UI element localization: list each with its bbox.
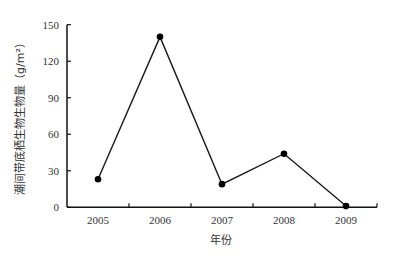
x-tick-label: 2005	[87, 214, 110, 226]
data-point-marker	[281, 150, 288, 157]
y-tick-label: 120	[43, 55, 60, 67]
x-axis-title: 年份	[210, 233, 232, 247]
y-tick-label: 90	[48, 92, 60, 104]
x-tick-label: 2007	[211, 214, 234, 226]
data-point-marker	[219, 181, 226, 188]
x-tick-label: 2009	[335, 214, 358, 226]
y-tick-label: 0	[54, 201, 60, 213]
x-axis: 20052006200720082009	[67, 203, 377, 226]
y-tick-label: 30	[48, 165, 60, 177]
data-line	[98, 37, 346, 206]
data-series	[95, 34, 350, 210]
y-tick-label: 150	[43, 19, 60, 31]
y-axis: 0306090120150	[43, 19, 72, 214]
x-tick-label: 2008	[273, 214, 296, 226]
line-chart: 0306090120150 20052006200720082009 年份 潮间…	[0, 0, 395, 258]
data-point-marker	[157, 34, 164, 41]
x-tick-label: 2006	[149, 214, 172, 226]
data-point-marker	[343, 203, 350, 210]
y-axis-title: 潮间带底栖生物生物量（g/m²）	[13, 37, 27, 195]
data-point-marker	[95, 176, 102, 183]
y-tick-label: 60	[48, 128, 60, 140]
